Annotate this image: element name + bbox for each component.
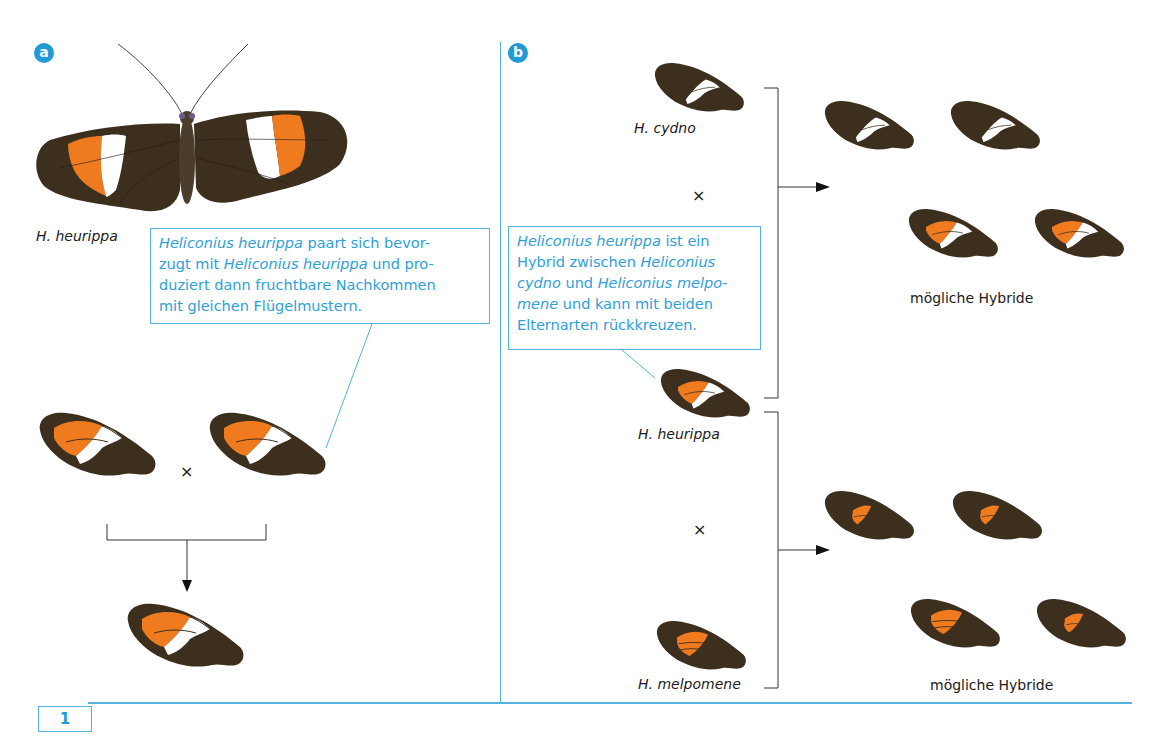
wing-hybrid-bottom-2 xyxy=(950,490,1050,545)
wing-hybrid-top-3 xyxy=(906,208,1006,263)
wing-hybrid-bottom-3 xyxy=(908,598,1008,653)
wing-hybrid-top-4 xyxy=(1032,208,1132,263)
wing-hybrid-top-2 xyxy=(948,100,1048,155)
figure-bottom-rule xyxy=(88,702,1132,704)
wing-hybrid-top-1 xyxy=(822,100,922,155)
figure-number: 1 xyxy=(38,706,92,732)
hybrids-label-top: mögliche Hybride xyxy=(910,290,1033,306)
hybrids-label-bottom: mögliche Hybride xyxy=(930,677,1053,693)
wing-hybrid-bottom-4 xyxy=(1034,598,1134,653)
wing-hybrid-bottom-1 xyxy=(822,490,922,545)
